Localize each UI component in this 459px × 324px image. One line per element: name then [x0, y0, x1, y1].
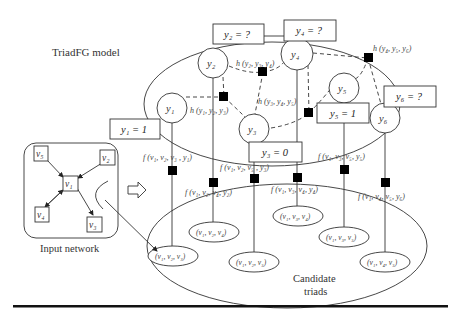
candidate-label-line1: Candidate [293, 273, 336, 284]
f-factor-node-2[interactable] [209, 178, 218, 187]
f-factor-label-5: f (v₁, v₃, v₅, y₅) [318, 152, 365, 161]
f-factor-node-6[interactable] [381, 178, 390, 187]
h-factor-node-345[interactable] [304, 108, 313, 117]
input-node-label-v2: v₂ [102, 153, 110, 163]
triad-label-1: (v₁, v₂, v₃) [155, 252, 186, 261]
f-factor-node-1[interactable] [168, 166, 177, 175]
input-node-label-v4: v₄ [37, 210, 45, 220]
edge-v1-v3 [77, 188, 93, 215]
label-box-text-y4: y₄ = ? [295, 25, 323, 36]
model-title: TriadFG model [52, 46, 120, 58]
label-box-text-y6: y₆ = ? [395, 91, 423, 102]
f-factor-node-4[interactable] [293, 173, 302, 182]
bottom-rule [13, 305, 448, 308]
candidate-label-line2: triads [304, 286, 327, 297]
edge-v2-v1 [78, 163, 102, 178]
triad-label-2: (v₁, v₂, v₄) [196, 228, 227, 237]
f-factor-node-3[interactable] [250, 174, 259, 183]
triadfg-diagram: TriadFG model y₁ y₂ y₃ y₄ y₅ y₆ y₁ = 1 y… [0, 0, 459, 324]
f-factor-node-5[interactable] [340, 165, 349, 174]
f-factor-label-1: f (v₁, v₂, v₃ , y₁) [143, 153, 192, 162]
input-node-label-v3: v₃ [89, 220, 97, 230]
transform-arrow-icon [128, 182, 146, 198]
dash-y3-h345 [271, 113, 309, 128]
triad-label-3: (v₁, v₂, v₅) [236, 258, 267, 267]
h-factor-label-456: h (y₄, y₅, y₆) [373, 44, 412, 53]
variable-label-y6: y₆ [378, 113, 388, 124]
f-factor-label-6: f (v₁, v₄, v₅, y₆) [358, 192, 405, 201]
label-box-text-y5: y₅ = 1 [329, 108, 356, 119]
dash-y4-h456 [313, 53, 368, 58]
triad-label-6: (v₁, v₄, v₅) [367, 258, 398, 267]
variable-label-y5: y₅ [337, 83, 347, 94]
dash-h456-y6 [368, 58, 381, 104]
label-box-text-y3: y₃ = 0 [261, 147, 289, 158]
selection-arc [96, 181, 108, 209]
variable-label-y3: y₃ [247, 124, 257, 135]
input-network-label: Input network [40, 243, 100, 254]
input-node-label-v5: v₅ [36, 149, 44, 159]
triad-label-4: (v₁, v₃, v₄) [280, 212, 311, 221]
f-factor-label-2: f (v₁, v₂, v₄, y₂) [185, 188, 232, 197]
h-factor-label-234: h (y₂, y₃, y₄) [236, 59, 275, 68]
edge-v1-v4 [45, 191, 62, 207]
label-box-text-y2: y₂ = ? [223, 29, 251, 40]
variable-label-y4: y₄ [290, 49, 300, 60]
h-factor-node-456[interactable] [364, 53, 373, 62]
h-factor-label-123: h (y₁, y₂, y₃) [190, 106, 229, 115]
f-factor-label-4: f (v₁, v₃, v₄, y₄) [271, 185, 318, 194]
mapping-arrow [105, 200, 157, 251]
h-factor-node-123[interactable] [219, 92, 228, 101]
dash-y4-h345 [308, 65, 309, 113]
input-node-label-v1: v₁ [65, 179, 73, 189]
variable-label-y1: y₁ [165, 103, 174, 114]
h-factor-node-234[interactable] [258, 67, 267, 76]
dash-h234-y3 [255, 72, 263, 114]
label-box-text-y1: y₁ = 1 [120, 124, 147, 135]
variable-label-y2: y₂ [206, 58, 216, 69]
h-factor-label-345: h (y₃, y₄, y₅) [258, 97, 297, 106]
f-factor-label-3: f (v₁, v₂, v₅ , y₃) [220, 163, 269, 172]
triad-label-5: (v₁, v₃, v₅) [326, 233, 357, 242]
edge-v5-v1 [47, 160, 63, 177]
